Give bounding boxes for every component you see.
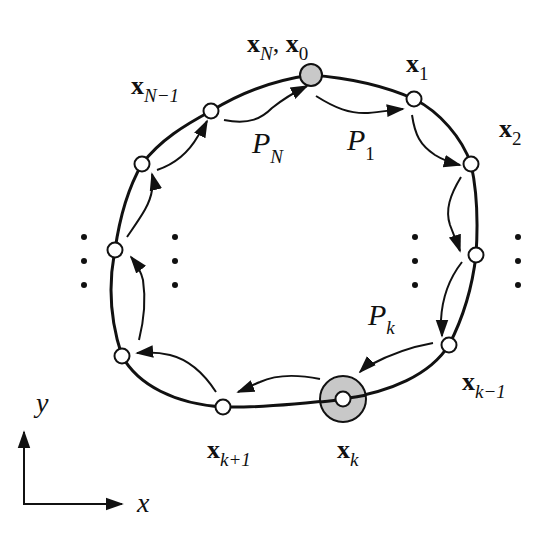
node-xkm1: [442, 338, 457, 353]
arrow-x1-to-x2: [412, 115, 460, 165]
label-P1: P1: [346, 123, 375, 164]
node-x2: [464, 157, 479, 172]
label-xN-1: xN−1: [131, 71, 179, 106]
arrow-left-to-dots: [131, 257, 144, 340]
node-xk: [336, 392, 351, 407]
node-x0-highlight: [300, 64, 322, 86]
node-right: [469, 248, 484, 263]
label-xk: xk: [337, 435, 359, 470]
orbit-diagram: xN, x0 x1 x2 xk−1 xk xk+1 xN−1 PN P1 Pk …: [0, 0, 555, 543]
label-PN: PN: [251, 126, 284, 167]
axis-label-y: y: [33, 387, 49, 418]
orbit-curve: [111, 75, 477, 407]
node-upperleft: [135, 157, 150, 172]
node-x1: [407, 92, 422, 107]
label-xN-x0: xN, x0: [247, 29, 308, 64]
label-Pk: Pk: [367, 298, 395, 338]
node-xNm1: [204, 104, 219, 119]
arrow-xN-1-to-x0: [224, 86, 307, 122]
axis-label-x: x: [136, 487, 150, 518]
node-lowerleft: [115, 349, 130, 364]
ellipsis-dots: [81, 234, 521, 288]
label-xk+1: xk+1: [207, 435, 251, 470]
arrow-xkm1-to-xk: [360, 343, 433, 372]
node-left: [108, 243, 123, 258]
arrow-x2-to-dots: [448, 177, 461, 251]
label-xk-1: xk−1: [462, 367, 506, 402]
node-xkp1: [216, 400, 231, 415]
arrow-xk-to-xkp1: [238, 376, 320, 392]
label-x1: x1: [406, 49, 429, 84]
coordinate-axes: y x: [23, 387, 150, 518]
label-x2: x2: [499, 114, 522, 149]
arrow-x0-to-x1: [316, 96, 403, 113]
